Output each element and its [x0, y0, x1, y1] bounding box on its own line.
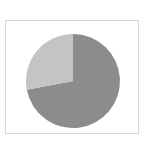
pie-slice-2: [26, 34, 73, 90]
pie-slices: [26, 34, 120, 128]
pie-chart: [0, 0, 147, 145]
